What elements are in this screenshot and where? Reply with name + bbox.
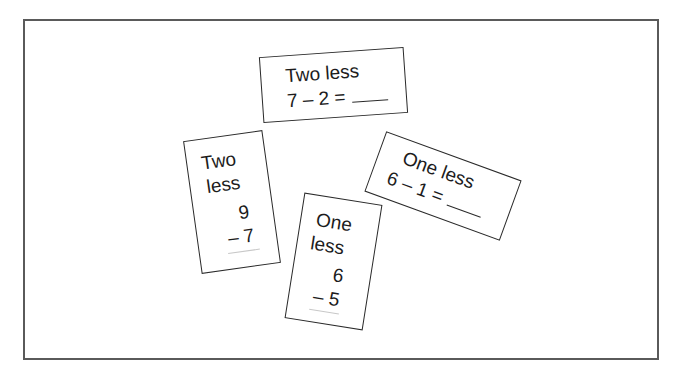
card-heading-line1: Two — [200, 149, 237, 173]
card-heading-line2: less — [309, 233, 345, 257]
bottom-number: – 5 — [312, 286, 341, 309]
answer-blank — [446, 191, 485, 217]
card-heading-line1: One — [315, 210, 353, 234]
answer-rule — [228, 249, 260, 254]
bottom-number: – 7 — [227, 225, 256, 247]
card-heading-line2: less — [205, 173, 241, 197]
top-number: 9 — [237, 202, 250, 222]
flash-card-two-less-7-minus-2: Two less 7 – 2 = — [259, 47, 408, 123]
equation-text: 7 – 2 = — [286, 86, 346, 111]
top-number: 6 — [331, 265, 344, 285]
card-heading: Two less — [285, 61, 360, 85]
card-equation: 7 – 2 = — [286, 84, 388, 110]
answer-blank — [351, 85, 388, 102]
